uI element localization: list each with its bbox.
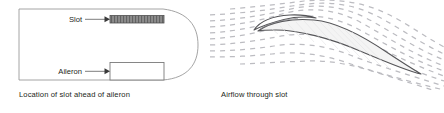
slot-strip bbox=[110, 16, 164, 24]
aileron-box bbox=[110, 63, 164, 81]
caption-airfoil-section: Airflow through slot bbox=[221, 90, 288, 100]
figure-root: Slot Aileron Location of slot ahead of a… bbox=[0, 0, 444, 113]
streamlines bbox=[210, 0, 444, 90]
aileron-label: Aileron bbox=[58, 67, 82, 76]
panel-wing-planform: Slot Aileron Location of slot ahead of a… bbox=[0, 0, 222, 113]
caption-wing-planform: Location of slot ahead of aileron bbox=[19, 90, 130, 100]
slot-label: Slot bbox=[69, 15, 83, 24]
wing-planform-svg: Slot Aileron bbox=[0, 0, 222, 90]
airfoil-section-svg bbox=[210, 0, 444, 90]
panel-airfoil-section: Airflow through slot bbox=[210, 0, 444, 113]
